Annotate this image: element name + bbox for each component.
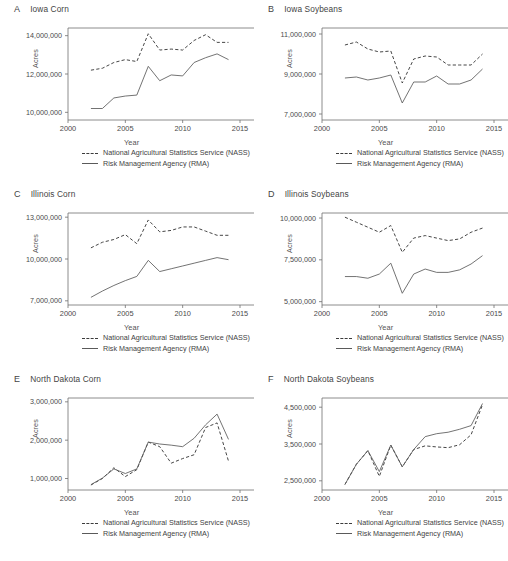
chart-legend: National Agricultural Statistics Service… bbox=[336, 518, 504, 539]
x-tick-label: 2000 bbox=[314, 124, 330, 133]
chart-panel-f: FNorth Dakota SoybeansAcresYear2,500,000… bbox=[254, 370, 508, 556]
x-tick-label: 2010 bbox=[174, 124, 190, 133]
legend-label: National Agricultural Statistics Service… bbox=[103, 148, 250, 159]
legend-item-rma[interactable]: Risk Management Agency (RMA) bbox=[336, 529, 504, 540]
y-tick-label: 5,000,000 bbox=[284, 297, 316, 306]
series-line-nass bbox=[91, 34, 229, 70]
legend-item-rma[interactable]: Risk Management Agency (RMA) bbox=[336, 344, 504, 355]
chart-panel-e: ENorth Dakota CornAcresYear1,000,0002,00… bbox=[0, 370, 254, 556]
panel-letter: A bbox=[14, 4, 20, 14]
series-line-rma bbox=[91, 54, 229, 109]
panel-header: CIllinois Corn bbox=[14, 189, 75, 199]
y-tick-label: 4,500,000 bbox=[284, 403, 316, 412]
nass-line-swatch bbox=[336, 523, 352, 524]
y-tick-label: 13,000,000 bbox=[26, 213, 62, 222]
plot-area: AcresYear2,500,0003,500,0004,500,0002000… bbox=[254, 388, 508, 518]
plot-svg: 7,000,00010,000,00013,000,00020002005201… bbox=[0, 203, 254, 333]
chart-panel-c: CIllinois CornAcresYear7,000,00010,000,0… bbox=[0, 185, 254, 370]
chart-panel-a: AIowa CornAcresYear10,000,00012,000,0001… bbox=[0, 0, 254, 185]
legend-item-rma[interactable]: Risk Management Agency (RMA) bbox=[82, 159, 250, 170]
series-line-rma bbox=[91, 414, 229, 485]
panel-header: ENorth Dakota Corn bbox=[14, 374, 101, 384]
legend-item-rma[interactable]: Risk Management Agency (RMA) bbox=[82, 344, 250, 355]
legend-label: Risk Management Agency (RMA) bbox=[357, 344, 463, 355]
legend-item-nass[interactable]: National Agricultural Statistics Service… bbox=[336, 148, 504, 159]
x-tick-label: 2000 bbox=[314, 309, 330, 318]
panel-title: Iowa Soybeans bbox=[284, 4, 342, 14]
panel-title: Illinois Corn bbox=[31, 189, 76, 199]
legend-item-nass[interactable]: National Agricultural Statistics Service… bbox=[82, 148, 250, 159]
y-tick-label: 7,000,000 bbox=[284, 110, 316, 119]
x-tick-label: 2010 bbox=[428, 494, 444, 503]
legend-label: Risk Management Agency (RMA) bbox=[357, 529, 463, 540]
plot-area: AcresYear5,000,0007,500,00010,000,000200… bbox=[254, 203, 508, 333]
x-tick-label: 2010 bbox=[428, 124, 444, 133]
plot-svg: 5,000,0007,500,00010,000,000200020052010… bbox=[254, 203, 508, 333]
panel-title: Iowa Corn bbox=[30, 4, 69, 14]
x-tick-label: 2010 bbox=[174, 494, 190, 503]
legend-item-nass[interactable]: National Agricultural Statistics Service… bbox=[336, 333, 504, 344]
series-line-nass bbox=[91, 220, 229, 248]
rma-line-swatch bbox=[82, 533, 98, 534]
chart-legend: National Agricultural Statistics Service… bbox=[336, 148, 504, 169]
nass-line-swatch bbox=[336, 338, 352, 339]
plot-svg: 7,000,0009,000,00011,000,000200020052010… bbox=[254, 18, 508, 148]
chart-panel-d: DIllinois SoybeansAcresYear5,000,0007,50… bbox=[254, 185, 508, 370]
y-tick-label: 2,500,000 bbox=[284, 476, 316, 485]
plot-svg: 2,500,0003,500,0004,500,0002000200520102… bbox=[254, 388, 508, 518]
chart-legend: National Agricultural Statistics Service… bbox=[82, 148, 250, 169]
rma-line-swatch bbox=[82, 348, 98, 349]
y-tick-label: 10,000,000 bbox=[26, 255, 62, 264]
chart-legend: National Agricultural Statistics Service… bbox=[82, 518, 250, 539]
plot-svg: 10,000,00012,000,00014,000,0002000200520… bbox=[0, 18, 254, 148]
legend-label: National Agricultural Statistics Service… bbox=[357, 518, 504, 529]
x-tick-label: 2015 bbox=[232, 309, 248, 318]
legend-item-rma[interactable]: Risk Management Agency (RMA) bbox=[82, 529, 250, 540]
x-tick-label: 2015 bbox=[486, 124, 502, 133]
y-tick-label: 10,000,000 bbox=[26, 108, 62, 117]
panel-letter: B bbox=[268, 4, 274, 14]
series-line-rma bbox=[345, 69, 483, 103]
y-tick-label: 14,000,000 bbox=[26, 31, 62, 40]
x-tick-label: 2005 bbox=[371, 309, 387, 318]
legend-label: National Agricultural Statistics Service… bbox=[357, 148, 504, 159]
rma-line-swatch bbox=[336, 348, 352, 349]
x-tick-label: 2015 bbox=[232, 494, 248, 503]
nass-line-swatch bbox=[82, 523, 98, 524]
plot-area: AcresYear10,000,00012,000,00014,000,0002… bbox=[0, 18, 254, 148]
legend-label: National Agricultural Statistics Service… bbox=[103, 333, 250, 344]
nass-line-swatch bbox=[336, 153, 352, 154]
panel-title: Illinois Soybeans bbox=[285, 189, 349, 199]
panel-title: North Dakota Soybeans bbox=[284, 374, 374, 384]
legend-item-nass[interactable]: National Agricultural Statistics Service… bbox=[82, 333, 250, 344]
plot-area: AcresYear7,000,0009,000,00011,000,000200… bbox=[254, 18, 508, 148]
y-tick-label: 3,000,000 bbox=[30, 397, 62, 406]
series-line-nass bbox=[91, 423, 229, 485]
y-tick-label: 7,000,000 bbox=[30, 296, 62, 305]
rma-line-swatch bbox=[336, 163, 352, 164]
legend-label: National Agricultural Statistics Service… bbox=[357, 333, 504, 344]
x-tick-label: 2005 bbox=[117, 494, 133, 503]
x-tick-label: 2005 bbox=[371, 124, 387, 133]
x-tick-label: 2010 bbox=[174, 309, 190, 318]
x-tick-label: 2000 bbox=[60, 494, 76, 503]
rma-line-swatch bbox=[336, 533, 352, 534]
x-tick-label: 2015 bbox=[486, 494, 502, 503]
x-tick-label: 2005 bbox=[371, 494, 387, 503]
legend-item-nass[interactable]: National Agricultural Statistics Service… bbox=[336, 518, 504, 529]
y-tick-label: 9,000,000 bbox=[284, 70, 316, 79]
legend-label: Risk Management Agency (RMA) bbox=[103, 344, 209, 355]
legend-item-nass[interactable]: National Agricultural Statistics Service… bbox=[82, 518, 250, 529]
panel-header: DIllinois Soybeans bbox=[268, 189, 349, 199]
panel-header: BIowa Soybeans bbox=[268, 4, 342, 14]
legend-item-rma[interactable]: Risk Management Agency (RMA) bbox=[336, 159, 504, 170]
y-tick-label: 10,000,000 bbox=[280, 214, 316, 223]
series-line-rma bbox=[345, 404, 483, 485]
panel-letter: E bbox=[14, 374, 20, 384]
legend-label: Risk Management Agency (RMA) bbox=[357, 159, 463, 170]
chart-legend: National Agricultural Statistics Service… bbox=[82, 333, 250, 354]
chart-panel-b: BIowa SoybeansAcresYear7,000,0009,000,00… bbox=[254, 0, 508, 185]
y-tick-label: 1,000,000 bbox=[30, 474, 62, 483]
x-tick-label: 2005 bbox=[117, 124, 133, 133]
panel-header: AIowa Corn bbox=[14, 4, 69, 14]
